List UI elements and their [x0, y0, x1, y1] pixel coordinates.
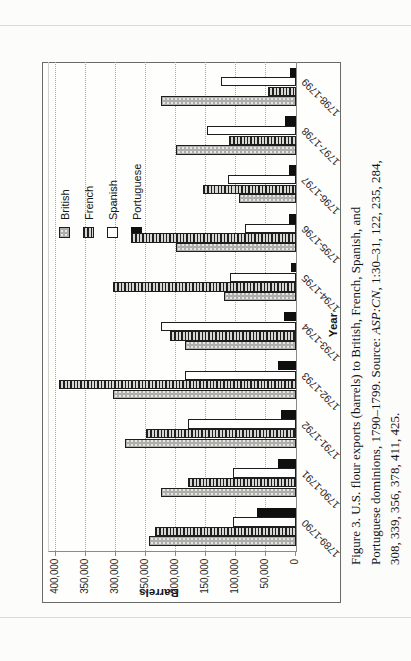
bar-spanish-1796-1797: [228, 175, 296, 184]
bar-french-1789-1790: [155, 527, 296, 536]
legend-item-british: British: [58, 164, 71, 238]
y-tick-label-0: 0: [289, 559, 300, 602]
bar-spanish-1794-1795: [230, 273, 296, 282]
bar-portuguese-1789-1790: [257, 508, 296, 517]
bar-portuguese-1794-1795: [291, 263, 296, 272]
y-tick-label-350000: 350,000: [79, 559, 90, 602]
caption-line-2: Portuguese dominions, 1790–1799. Source:…: [366, 160, 386, 565]
bar-british-1798-1799: [161, 96, 296, 105]
y-tick-label-250000: 250,000: [139, 559, 150, 602]
bar-french-1791-1792: [146, 429, 296, 438]
bar-french-1796-1797: [203, 185, 296, 194]
bar-portuguese-1797-1798: [285, 116, 296, 125]
y-tick-label-400000: 400,000: [49, 559, 60, 602]
legend-swatch-french-icon: [83, 227, 94, 238]
bar-spanish-1789-1790: [233, 517, 296, 526]
bar-spanish-1795-1796: [245, 224, 296, 233]
y-axis-tick: [115, 552, 116, 556]
gridline-200000: [175, 62, 176, 551]
bar-spanish-1790-1791: [233, 468, 296, 477]
bar-spanish-1792-1793: [185, 371, 296, 380]
y-axis-tick: [85, 552, 86, 556]
bar-british-1793-1794: [185, 341, 296, 350]
y-axis-tick: [205, 552, 206, 556]
bar-portuguese-1793-1794: [284, 312, 296, 321]
gridline-350000: [85, 62, 86, 551]
bar-british-1790-1791: [161, 488, 296, 497]
gridline-300000: [115, 62, 116, 551]
legend-item-spanish: Spanish: [106, 164, 119, 238]
legend-item-french: French: [82, 164, 95, 238]
bar-french-1797-1798: [229, 136, 296, 145]
bar-portuguese-1792-1793: [278, 361, 296, 370]
legend-label-british: British: [59, 189, 71, 220]
bar-british-1797-1798: [176, 145, 296, 154]
y-axis-tick: [295, 552, 296, 556]
bar-french-1793-1794: [170, 331, 296, 340]
y-tick-label-150000: 150,000: [199, 559, 210, 602]
y-axis-tick: [175, 552, 176, 556]
bar-spanish-1797-1798: [207, 126, 296, 135]
bar-french-1792-1793: [59, 380, 296, 389]
caption-source-abbrev: ASP:CN: [368, 291, 383, 335]
bar-french-1798-1799: [268, 87, 296, 96]
bar-portuguese-1790-1791: [278, 459, 296, 468]
bar-french-1795-1796: [131, 233, 296, 242]
gridline-250000: [145, 62, 146, 551]
legend-swatch-spanish-icon: [107, 227, 118, 238]
y-tick-label-50000: 50,000: [259, 559, 270, 602]
bar-british-1792-1793: [113, 390, 296, 399]
bar-portuguese-1795-1796: [289, 214, 296, 223]
legend-swatch-british-icon: [59, 227, 70, 238]
bar-british-1789-1790: [149, 536, 296, 545]
bar-spanish-1798-1799: [221, 77, 296, 86]
y-tick-label-200000: 200,000: [169, 559, 180, 602]
bar-british-1791-1792: [125, 439, 296, 448]
figure-caption: Figure 3. U.S. flour exports (barrels) t…: [346, 160, 405, 565]
y-axis-tick: [55, 552, 56, 556]
bar-portuguese-1798-1799: [290, 68, 296, 77]
legend-label-spanish: Spanish: [107, 180, 119, 220]
chart-frame: BritishFrenchSpanishPortuguese Barrels Y…: [42, 62, 341, 603]
y-axis-tick: [265, 552, 266, 556]
bar-portuguese-1791-1792: [281, 410, 296, 419]
y-tick-label-300000: 300,000: [109, 559, 120, 602]
plot-area: BritishFrenchSpanishPortuguese: [48, 62, 297, 552]
legend-item-portuguese: Portuguese: [130, 164, 143, 238]
scanned-page: BritishFrenchSpanishPortuguese Barrels Y…: [0, 0, 411, 661]
bar-british-1795-1796: [176, 243, 296, 252]
bar-french-1794-1795: [113, 282, 296, 291]
chart-legend: BritishFrenchSpanishPortuguese: [58, 164, 154, 238]
gridline-400000: [55, 62, 56, 551]
legend-label-french: French: [83, 186, 95, 220]
bar-british-1794-1795: [224, 292, 296, 301]
bar-french-1790-1791: [188, 478, 296, 487]
bar-spanish-1791-1792: [188, 419, 296, 428]
y-axis-tick: [235, 552, 236, 556]
bar-portuguese-1796-1797: [289, 165, 296, 174]
bar-british-1796-1797: [239, 194, 296, 203]
rotated-figure-sheet: BritishFrenchSpanishPortuguese Barrels Y…: [0, 0, 411, 661]
y-axis-tick: [145, 552, 146, 556]
y-tick-label-100000: 100,000: [229, 559, 240, 602]
bar-spanish-1793-1794: [161, 322, 296, 331]
legend-label-portuguese: Portuguese: [131, 164, 143, 220]
caption-line-3: 308, 339, 356, 378, 411, 425.: [385, 160, 405, 565]
caption-line-1: Figure 3. U.S. flour exports (barrels) t…: [346, 160, 366, 565]
